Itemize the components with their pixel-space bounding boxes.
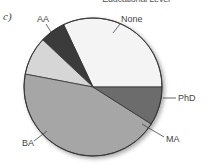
pie-slices (24, 18, 162, 156)
slice-label-ba: BA (22, 138, 34, 148)
leader-line-aa (46, 24, 51, 32)
slice-label-phd: PhD (178, 93, 196, 103)
slice-label-aa: AA (37, 14, 49, 24)
slice-label-none: None (121, 14, 143, 24)
slice-label-ma: MA (166, 134, 180, 144)
pie-chart: NonePhDMABAAA (0, 0, 208, 164)
